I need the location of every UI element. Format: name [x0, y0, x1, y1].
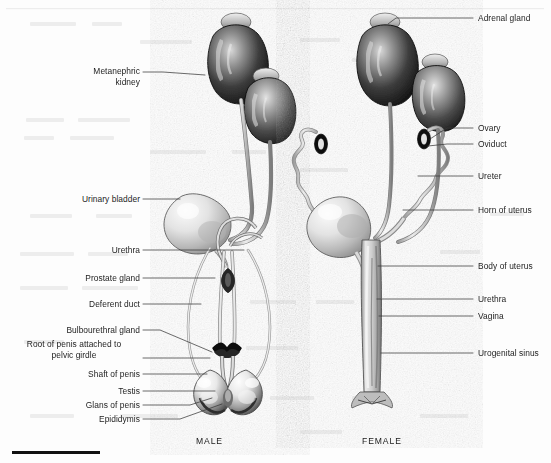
- label-bulbourethral-gland: Bulbourethral gland: [10, 325, 140, 336]
- label-vagina: Vagina: [478, 311, 504, 322]
- male-bulbourethral-root: [212, 343, 242, 358]
- label-urethra: Urethra: [36, 245, 140, 256]
- caption-male: MALE: [196, 436, 223, 446]
- label-ureter-line-1: Ureter: [478, 171, 502, 182]
- label-ovary: Ovary: [478, 123, 501, 134]
- label-vagina-line-1: Vagina: [478, 311, 504, 322]
- label-root-of-penis-line-1: Root of penis attached to: [8, 339, 140, 350]
- label-adrenal-gland: Adrenal gland: [478, 13, 530, 24]
- label-prostate-gland: Prostate gland: [36, 273, 140, 284]
- female-uterine-trunk: [351, 240, 392, 408]
- label-urogenital-sinus: Urogenital sinus: [478, 348, 539, 359]
- label-testis-line-1: Testis: [36, 386, 140, 397]
- label-testis: Testis: [36, 386, 140, 397]
- female-anatomy: [294, 13, 465, 408]
- label-body-of-uterus: Body of uterus: [478, 261, 533, 272]
- label-epididymis: Epididymis: [36, 414, 140, 425]
- female-ovaries: [315, 129, 431, 154]
- female-kidney-left: [357, 13, 419, 106]
- label-root-of-penis-line-2: pelvic girdle: [8, 350, 140, 361]
- label-glans-of-penis-line-1: Glans of penis: [36, 400, 140, 411]
- leader-metanephric-kidney: [143, 72, 205, 75]
- label-metanephric-kidney: Metanephrickidney: [36, 66, 140, 87]
- label-deferent-duct: Deferent duct: [36, 299, 140, 310]
- label-ureter: Ureter: [478, 171, 502, 182]
- label-oviduct-line-1: Oviduct: [478, 139, 507, 150]
- label-epididymis-line-1: Epididymis: [36, 414, 140, 425]
- label-root-of-penis: Root of penis attached topelvic girdle: [8, 339, 140, 360]
- label-urogenital-sinus-line-1: Urogenital sinus: [478, 348, 539, 359]
- label-urethra-f-line-1: Urethra: [478, 294, 506, 305]
- label-urinary-bladder-line-1: Urinary bladder: [36, 194, 140, 205]
- label-metanephric-kidney-line-1: Metanephric: [36, 66, 140, 77]
- label-bulbourethral-gland-line-1: Bulbourethral gland: [10, 325, 140, 336]
- label-urethra-line-1: Urethra: [36, 245, 140, 256]
- label-shaft-of-penis-line-1: Shaft of penis: [36, 369, 140, 380]
- label-deferent-duct-line-1: Deferent duct: [36, 299, 140, 310]
- label-prostate-gland-line-1: Prostate gland: [36, 273, 140, 284]
- label-horn-of-uterus: Horn of uterus: [478, 205, 532, 216]
- label-urethra-f: Urethra: [478, 294, 506, 305]
- label-glans-of-penis: Glans of penis: [36, 400, 140, 411]
- label-shaft-of-penis: Shaft of penis: [36, 369, 140, 380]
- male-testes: [194, 370, 263, 415]
- label-body-of-uterus-line-1: Body of uterus: [478, 261, 533, 272]
- label-adrenal-gland-line-1: Adrenal gland: [478, 13, 530, 24]
- leader-oviduct: [428, 144, 473, 146]
- leader-adrenal-gland: [388, 18, 473, 24]
- female-kidney-right: [412, 54, 465, 132]
- label-urinary-bladder: Urinary bladder: [36, 194, 140, 205]
- label-oviduct: Oviduct: [478, 139, 507, 150]
- label-ovary-line-1: Ovary: [478, 123, 501, 134]
- bottom-rule: [12, 451, 100, 454]
- caption-female: FEMALE: [362, 436, 402, 446]
- leader-bulbourethral-gland: [143, 330, 212, 352]
- label-horn-of-uterus-line-1: Horn of uterus: [478, 205, 532, 216]
- label-metanephric-kidney-line-2: kidney: [36, 77, 140, 88]
